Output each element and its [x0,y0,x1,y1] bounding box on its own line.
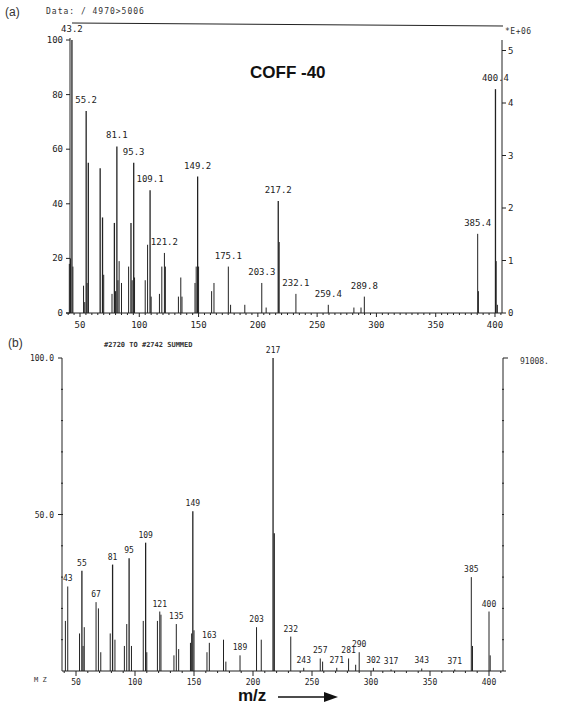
arrow-right-icon [324,692,338,702]
mz-arrow [0,0,566,718]
